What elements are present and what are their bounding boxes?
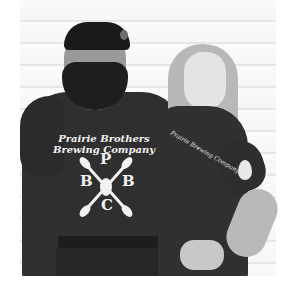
photo: Prairie Brothers Brewing Company P B B C… [0,0,292,294]
shirt-text-line1: Prairie Brothers [46,133,162,144]
emblem-letter-b-left: B [80,172,93,190]
bottom-margin [0,276,292,294]
emblem-letter-c: C [101,196,113,214]
woman-face [184,52,226,110]
cap-logo-icon [120,30,128,40]
woman-hand-on-hip [180,240,224,270]
emblem-letter-p: P [100,150,111,168]
emblem-letter-b-right: B [122,172,135,190]
